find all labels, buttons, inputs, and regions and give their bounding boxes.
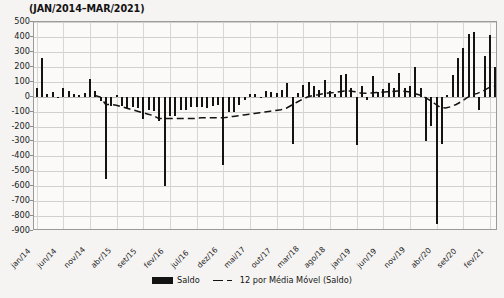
legend-bar-swatch-icon [152,277,173,284]
y-tick-label: -600 [2,180,30,190]
x-tick-label: fev/21 [462,247,485,270]
x-tick-label: abr/15 [89,246,113,270]
y-tick-label: 0 [2,91,30,101]
chart-legend: Saldo 12 por Média Móvel (Saldo) [0,276,504,284]
y-tick-label: -500 [2,165,30,175]
y-tick-label: -100 [2,106,30,116]
x-tick-label: set/15 [115,247,138,270]
x-tick-label: set/20 [435,247,458,270]
y-tick-label: 100 [2,76,30,86]
x-tick-label: mai/17 [222,245,247,270]
legend-label-saldo: Saldo [177,276,200,284]
x-tick-label: jul/16 [169,248,190,269]
x-tick-label: nov/14 [62,245,87,270]
chart-canvas: (JAN/2014–MAR/2021) 5004003002001000-100… [0,0,504,298]
x-tick-label: jun/14 [35,247,58,270]
moving-average-polyline [95,86,493,119]
x-tick-label: jan/19 [329,247,352,270]
y-tick-label: -900 [2,225,30,235]
y-tick-label: -400 [2,150,30,160]
legend-label-moving-average: 12 por Média Móvel (Saldo) [240,276,352,284]
y-tick-label: 200 [2,61,30,71]
y-tick-label: 300 [2,46,30,56]
y-tick-label: -800 [2,210,30,220]
moving-average-line [34,22,496,230]
x-tick-label: fev/16 [142,247,165,270]
y-axis: 5004003002001000-100-200-300-400-500-600… [0,21,30,230]
x-axis-labels: jan/14jun/14nov/14abr/15set/15fev/16jul/… [33,231,497,275]
y-tick-label: 400 [2,31,30,41]
legend-item-saldo: Saldo [152,276,200,284]
x-tick-label: mar/18 [275,244,301,270]
x-tick-label: abr/20 [409,246,433,270]
legend-dashed-line-swatch-icon [213,277,236,284]
chart-title: (JAN/2014–MAR/2021) [29,3,144,14]
x-tick-label: jun/19 [355,247,378,270]
x-tick-label: dez/16 [195,245,220,270]
x-tick-label: nov/19 [382,245,407,270]
y-tick-label: -700 [2,195,30,205]
x-tick-label: jan/14 [9,247,32,270]
y-tick-label: 500 [2,16,30,26]
plot-area [33,21,497,230]
x-tick-label: out/17 [249,246,273,270]
y-tick-label: -300 [2,135,30,145]
legend-item-moving-average: 12 por Média Móvel (Saldo) [213,276,352,284]
y-tick-label: -200 [2,121,30,131]
x-tick-label: ago/18 [302,245,327,270]
